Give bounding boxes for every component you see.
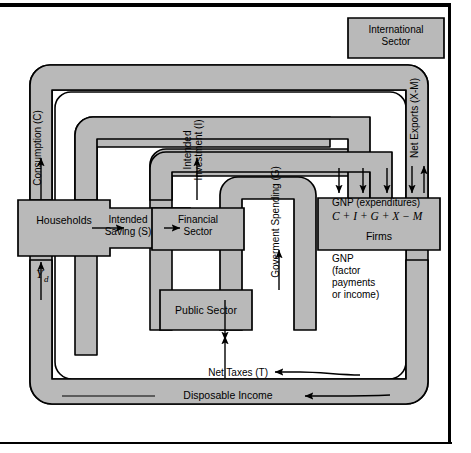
intended-investment-label-line2: Investment (I) [193, 119, 204, 180]
intended-saving-label-line2: Saving (S) [105, 226, 152, 237]
government-spending-label: Goverment Spending (G) [270, 166, 281, 278]
gnp-factor-label-line4: or income) [332, 289, 379, 300]
financial-sector-label-line1: Financial [178, 214, 218, 225]
intended-saving-label-line1: Intended [109, 214, 148, 225]
net-exports-label: Net Exports (X-M) [409, 78, 420, 158]
disposable-income-label: Disposable Income [183, 389, 272, 401]
gnp-equation-label: C + I + G + X − M [332, 210, 424, 222]
circular-flow-figure: Consumption (C) Intended Investment (I) … [0, 0, 471, 453]
gnp-factor-label-line3: payments [332, 277, 375, 288]
circular-flow-diagram: Consumption (C) Intended Investment (I) … [0, 0, 471, 453]
gnp-expenditures-label: GNP (expenditures) [332, 197, 420, 208]
financial-sector-label-line2: Sector [184, 226, 214, 237]
international-sector-label-line1: International [368, 24, 423, 35]
net-taxes-label: Net Taxes (T) [208, 367, 268, 378]
international-sector-label-line2: Sector [382, 36, 412, 47]
gnp-factor-label-line1: GNP [332, 253, 354, 264]
public-sector-label: Public Sector [175, 304, 237, 316]
disposable-income-subscript: d [44, 274, 49, 284]
households-label: Households [36, 214, 91, 226]
consumption-label: Consumption (C) [32, 110, 43, 186]
right-rule [448, 3, 451, 444]
top-rule [0, 3, 450, 7]
intended-investment-label-line1: Intended [182, 131, 193, 170]
bottom-rule [0, 442, 452, 444]
firms-label: Firms [366, 230, 392, 242]
gnp-factor-label-line2: (factor [332, 265, 361, 276]
